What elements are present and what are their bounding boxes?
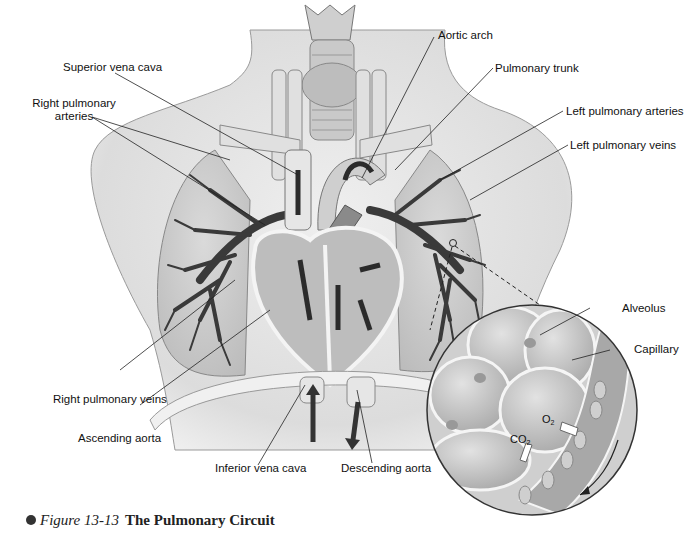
- label-right-pulmonary-arteries-line2: arteries: [24, 110, 124, 123]
- label-pulmonary-trunk: Pulmonary trunk: [495, 62, 579, 75]
- label-left-pulmonary-arteries: Left pulmonary arteries: [566, 105, 684, 118]
- co2-subscript: 2: [527, 439, 531, 446]
- trachea: [302, 5, 362, 140]
- figure-number: Figure 13-13: [40, 512, 119, 528]
- label-ascending-aorta: Ascending aorta: [78, 432, 161, 445]
- figure-caption: Figure 13-13The Pulmonary Circuit: [26, 512, 275, 529]
- label-inferior-vena-cava: Inferior vena cava: [215, 462, 306, 475]
- label-superior-vena-cava: Superior vena cava: [63, 61, 162, 74]
- figure-title: The Pulmonary Circuit: [125, 512, 275, 528]
- label-descending-aorta: Descending aorta: [341, 462, 431, 475]
- alveolus-detail: [427, 305, 637, 515]
- label-oxygen: O2: [542, 413, 554, 426]
- oxygen-subscript: 2: [551, 419, 555, 426]
- label-alveolus: Alveolus: [622, 302, 665, 315]
- oxygen-symbol: O: [542, 413, 551, 425]
- pulmonary-circuit-figure: Superior vena cava Right pulmonary arter…: [0, 0, 699, 545]
- label-capillary: Capillary: [634, 343, 679, 356]
- bullet-icon: [26, 515, 36, 525]
- label-carbon-dioxide: CO2: [510, 433, 530, 446]
- label-right-pulmonary-arteries: Right pulmonary arteries: [24, 97, 124, 123]
- label-right-pulmonary-arteries-line1: Right pulmonary: [24, 97, 124, 110]
- co2-symbol: CO: [510, 433, 527, 445]
- label-right-pulmonary-veins: Right pulmonary veins: [53, 393, 167, 406]
- label-aortic-arch: Aortic arch: [438, 29, 493, 42]
- label-left-pulmonary-veins: Left pulmonary veins: [570, 139, 676, 152]
